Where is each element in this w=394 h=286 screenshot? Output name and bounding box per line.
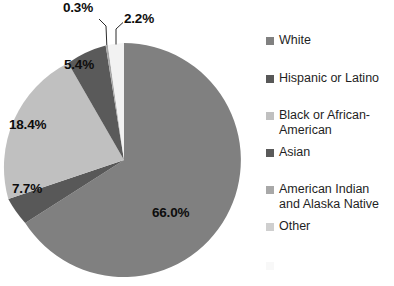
legend-swatch-icon <box>266 262 274 270</box>
legend-swatch-icon <box>266 186 274 194</box>
legend-item-american-indian-and-alaska-native[interactable]: American Indian and Alaska Native <box>266 182 394 212</box>
legend-item-clipped[interactable] <box>266 258 394 270</box>
legend-label: White <box>279 33 311 48</box>
legend-swatch-icon <box>266 149 274 157</box>
legend-item-asian[interactable]: Asian <box>266 145 394 160</box>
legend-swatch-icon <box>266 112 274 120</box>
slice-label-american-indian-and-alaska-native: 0.3% <box>63 0 93 15</box>
leader-line-american-indian <box>99 19 107 45</box>
legend-swatch-icon <box>266 75 274 83</box>
legend-item-other[interactable]: Other <box>266 219 394 234</box>
legend-label: Asian <box>279 145 310 160</box>
pie-chart-figure: 66.0% 7.7% 18.4% 5.4% 0.3% 2.2% White Hi… <box>0 0 394 286</box>
pie-plot-area: 66.0% 7.7% 18.4% 5.4% 0.3% 2.2% <box>0 0 260 286</box>
legend: White Hispanic or Latino Black or Africa… <box>266 33 394 276</box>
slice-label-white: 66.0% <box>152 205 189 220</box>
legend-label: Hispanic or Latino <box>279 71 379 86</box>
legend-item-white[interactable]: White <box>266 33 394 48</box>
legend-label: Other <box>279 219 310 234</box>
slice-label-black-or-african-american: 18.4% <box>9 117 46 132</box>
pie-svg <box>0 0 260 286</box>
leader-line-other <box>116 23 123 45</box>
legend-swatch-icon <box>266 37 274 45</box>
legend-swatch-icon <box>266 223 274 231</box>
legend-label: Black or African- American <box>279 108 370 138</box>
slice-label-asian: 5.4% <box>64 57 94 72</box>
slice-label-other: 2.2% <box>124 11 154 26</box>
legend-item-hispanic-or-latino[interactable]: Hispanic or Latino <box>266 71 394 86</box>
slice-label-hispanic-or-latino: 7.7% <box>12 181 42 196</box>
legend-item-black-or-african-american[interactable]: Black or African- American <box>266 108 394 138</box>
legend-label: American Indian and Alaska Native <box>279 182 379 212</box>
